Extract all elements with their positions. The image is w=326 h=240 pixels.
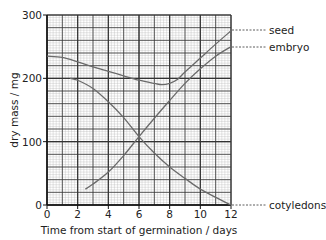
- x-axis-label: Time from start of germination / days: [40, 224, 238, 236]
- series-labels: seedembryocotyledons: [232, 24, 326, 211]
- seed-label: seed: [269, 24, 294, 36]
- x-tick-label: 12: [224, 208, 237, 220]
- embryo-label: embryo: [269, 41, 309, 53]
- x-tick-label: 2: [74, 208, 81, 220]
- x-tick-label: 8: [166, 208, 173, 220]
- x-tick-label: 10: [194, 208, 207, 220]
- x-tick-label: 6: [136, 208, 143, 220]
- chart-svg: 0100200300024681012 seedembryocotyledons…: [0, 0, 326, 240]
- dry-mass-germination-chart: 0100200300024681012 seedembryocotyledons…: [0, 0, 326, 240]
- y-axis-label: dry mass / mg: [8, 72, 20, 147]
- cotyledons-label: cotyledons: [269, 199, 326, 211]
- y-tick-label: 200: [22, 72, 42, 84]
- y-tick-label: 100: [22, 136, 42, 148]
- x-tick-label: 0: [44, 208, 51, 220]
- y-tick-label: 0: [35, 199, 42, 211]
- x-tick-label: 4: [105, 208, 112, 220]
- y-tick-label: 300: [22, 9, 42, 21]
